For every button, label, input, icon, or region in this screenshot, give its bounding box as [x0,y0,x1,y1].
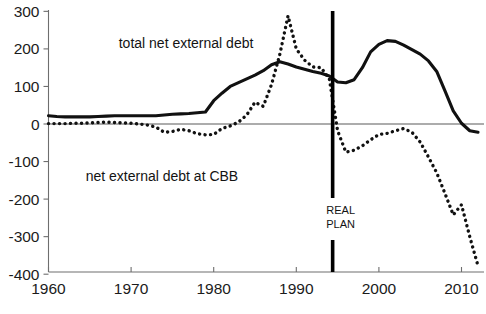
y-tick-label: 100 [14,78,40,95]
y-tick-label: -300 [8,228,39,245]
x-tick-label: 2010 [444,280,479,297]
series-1-annotation-label: total net external debt [119,35,254,51]
y-tick-label: 200 [14,40,40,57]
y-tick-label: 0 [31,116,40,133]
chart-container: 3002001000-100-200-300-400 1960197019801… [0,0,486,314]
x-tick-label: 1990 [279,280,314,297]
x-tick-label: 2000 [362,280,397,297]
chart-svg: 3002001000-100-200-300-400 1960197019801… [0,0,486,314]
y-tick-label: -200 [8,191,39,208]
real-plan-label-line2: PLAN [326,218,355,230]
x-tick-label: 1960 [31,280,66,297]
x-tick-label: 1970 [114,280,149,297]
series-2-annotation-label: net external debt at CBB [86,168,239,184]
real-plan-label-line1: REAL [326,204,355,216]
series-total-net-external-debt [49,41,479,133]
y-tick-label: -100 [8,153,39,170]
series-net-external-debt-at-cbb [49,16,479,266]
y-axis-ticks: 3002001000-100-200-300-400 [8,3,48,283]
x-tick-label: 1980 [196,280,231,297]
y-tick-label: 300 [14,3,40,20]
